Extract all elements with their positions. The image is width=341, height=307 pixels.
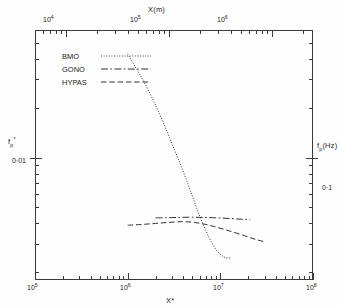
curve-gono xyxy=(156,217,251,219)
chart-figure: X(m) 104 105 106 fp* 0·01 fp(Hz) 0·1 105… xyxy=(0,0,341,307)
curve-bmo xyxy=(128,54,231,258)
data-curves xyxy=(0,0,341,307)
curve-hypas xyxy=(128,222,265,242)
